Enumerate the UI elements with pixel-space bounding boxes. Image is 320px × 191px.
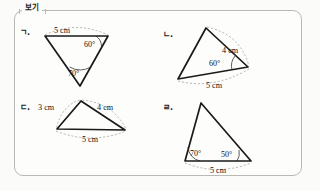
- item-label-b: ㄴ.: [163, 30, 173, 39]
- figure-a: ㄱ. 5 cm 60° 70°: [20, 26, 108, 86]
- angle-arc-d-right: [237, 150, 239, 161]
- figure-c: ㄷ. 3 cm 4 cm 5 cm: [20, 100, 126, 144]
- item-label-a: ㄱ.: [20, 28, 30, 37]
- figures-canvas: ㄱ. 5 cm 60° 70° ㄴ. 4 cm 5 cm: [0, 0, 320, 191]
- dim-b-right: 4 cm: [222, 46, 239, 55]
- triangle-a-outline: [45, 36, 108, 86]
- figure-b: ㄴ. 4 cm 5 cm 60°: [163, 27, 249, 90]
- tab-notch-right: [45, 9, 51, 14]
- boki-label: 보기: [22, 3, 42, 12]
- angle-b-right: 60°: [209, 59, 220, 68]
- triangle-c-outline: [57, 101, 125, 130]
- dim-a-top: 5 cm: [54, 26, 71, 35]
- dim-d-bottom: 5 cm: [210, 166, 227, 175]
- item-label-d: ㄹ.: [163, 103, 173, 112]
- angle-d-left: 70°: [190, 149, 201, 158]
- dim-c-bottom: 5 cm: [82, 135, 99, 144]
- worksheet-page: 보기 ㄱ. 5 cm 60° 70° ㄴ.: [0, 0, 320, 191]
- angle-a-bottom: 70°: [68, 69, 79, 78]
- angle-arc-b-right: [231, 56, 235, 70]
- angle-d-right: 50°: [221, 150, 232, 159]
- angle-arc-a-right: [96, 36, 102, 46]
- leader-arc-c-left: [56, 100, 80, 129]
- dim-c-right: 4 cm: [97, 103, 114, 112]
- item-label-c: ㄷ.: [20, 103, 30, 112]
- figure-d: ㄹ. 70° 50° 5 cm: [163, 103, 251, 175]
- angle-a-right: 60°: [84, 40, 95, 49]
- dim-c-left: 3 cm: [38, 103, 55, 112]
- dim-b-bottom: 5 cm: [206, 81, 223, 90]
